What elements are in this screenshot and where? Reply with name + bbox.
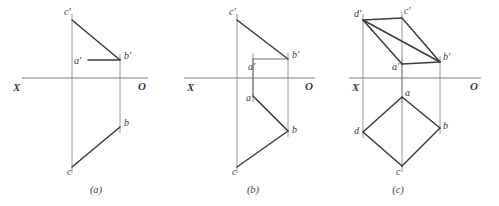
edge-c-b-to-a <box>402 97 440 128</box>
vertex-label-c-a-prime: a' <box>392 61 400 72</box>
figure-group-a: c'b'a'bcXO(a) <box>12 6 148 196</box>
vertex-label-b-b: b <box>292 124 297 135</box>
vertex-label-c-b-prime: b' <box>443 51 451 62</box>
vertex-label-b-c-prime: c' <box>229 6 236 17</box>
figure-sheet: c'b'a'bcXO(a)c'b'a'abcXO(b)d'c'a'b'adbcX… <box>0 0 499 206</box>
edge-a-c-to-b <box>72 127 120 167</box>
figure-group-b: c'b'a'abcXO(b) <box>184 6 315 196</box>
vertex-label-c-b: b <box>443 120 448 131</box>
edge-b-c-to-b <box>237 131 288 167</box>
figure-group-c: d'c'a'b'adbcXO(c) <box>349 5 481 196</box>
vertex-label-a-a-prime: a' <box>74 55 82 66</box>
vertex-label-c-c: c <box>396 166 401 177</box>
edge-c-a-prime-to-b-prime <box>402 62 440 64</box>
vertex-label-c-c-prime: c' <box>404 5 411 16</box>
drawing-root: c'b'a'bcXO(a)c'b'a'abcXO(b)d'c'a'b'adbcX… <box>12 5 481 196</box>
vertex-label-c-a: a <box>405 87 410 98</box>
vertex-label-c-d-prime: d' <box>354 8 362 19</box>
edge-c-c-prime-to-b-prime <box>402 18 440 62</box>
axis-label-x-a: X <box>12 81 21 93</box>
vertex-label-c-d: d <box>354 125 360 136</box>
edge-c-d-to-c <box>363 132 402 166</box>
figure-caption-a: (a) <box>90 184 103 196</box>
axis-label-o-c: O <box>470 80 478 92</box>
axis-label-x-c: X <box>351 81 360 93</box>
figure-caption-b: (b) <box>247 184 260 196</box>
axis-label-o-b: O <box>305 80 313 92</box>
projection-drawing: c'b'a'bcXO(a)c'b'a'abcXO(b)d'c'a'b'adbcX… <box>0 0 499 206</box>
vertex-label-a-b-prime: b' <box>124 50 132 61</box>
vertex-label-a-b: b <box>124 117 129 128</box>
axis-label-o-a: O <box>138 80 146 92</box>
vertex-label-a-c: c <box>67 166 72 177</box>
edge-b-c-prime-to-b-prime <box>237 20 288 59</box>
vertex-label-a-c-prime: c' <box>64 6 71 17</box>
axis-label-x-b: X <box>186 81 195 93</box>
vertex-label-b-a: a <box>246 92 251 103</box>
vertex-label-b-a-prime: a' <box>248 61 256 72</box>
edge-c-d-prime-to-c-prime <box>363 18 402 20</box>
edge-c-d-prime-to-b-prime <box>363 20 440 62</box>
vertex-label-b-b-prime: b' <box>292 49 300 60</box>
edge-b-a-to-b <box>253 96 288 131</box>
edge-c-d-prime-to-a-prime <box>363 20 402 64</box>
vertex-label-b-c: c <box>232 166 237 177</box>
edge-c-c-to-b <box>402 128 440 166</box>
figure-caption-c: (c) <box>392 184 404 196</box>
edge-c-a-to-d <box>363 97 402 132</box>
edge-a-c-prime-to-b-prime <box>72 20 120 60</box>
